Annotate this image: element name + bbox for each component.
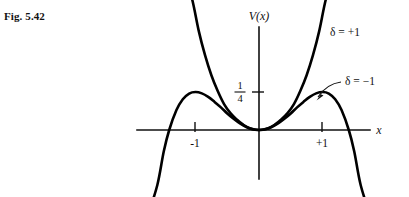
figure-container: Fig. 5.42 V(x) x -1 +1 1 4 δ = <box>0 0 409 197</box>
potential-energy-plot: V(x) x -1 +1 1 4 δ = +1 δ = −1 <box>0 0 409 197</box>
x-axis-title: x <box>375 123 382 137</box>
x-tick-label-plus-1: +1 <box>316 137 328 149</box>
x-tick-label-minus-1: -1 <box>190 137 200 149</box>
y-axis-title: V(x) <box>249 9 270 23</box>
delta-minus-1-arrowhead <box>317 94 324 100</box>
curve-label-delta-minus-1: δ = −1 <box>345 75 375 87</box>
fraction-numerator: 1 <box>237 80 242 91</box>
fraction-denominator: 4 <box>237 93 243 104</box>
curve-label-delta-plus-1: δ = +1 <box>330 26 360 38</box>
y-tick-label-one-quarter: 1 4 <box>235 80 246 104</box>
